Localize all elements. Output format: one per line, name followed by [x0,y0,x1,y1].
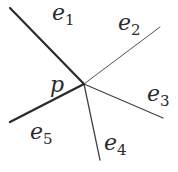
diagram-canvas: p e1 e2 e3 e4 e5 [0,0,178,172]
label-e3: e3 [147,81,170,110]
edge-e2 [84,27,160,84]
label-e2: e2 [118,10,141,39]
edge-e4 [84,84,100,160]
label-p: p [50,72,64,97]
edge-e5 [10,84,84,122]
label-e1: e1 [52,0,75,29]
label-e4: e4 [104,130,127,159]
edge-star-diagram: p e1 e2 e3 e4 e5 [0,0,178,172]
label-e5: e5 [30,119,53,148]
